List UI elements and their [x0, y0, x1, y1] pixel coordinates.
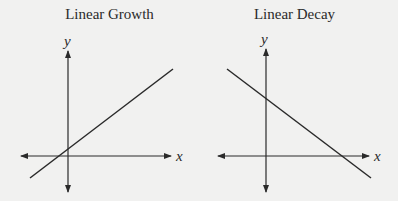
y-axis-label: y [62, 33, 71, 49]
x-axis-label: x [175, 148, 183, 164]
linear-decay-panel: Linear Decay y x [199, 0, 398, 201]
linear-growth-graph: y x [0, 0, 199, 201]
growth-line [30, 69, 173, 178]
linear-decay-graph: y x [199, 0, 398, 201]
y-axis-label: y [259, 31, 268, 47]
x-axis-label: x [373, 148, 381, 164]
decay-line [227, 69, 371, 178]
linear-growth-panel: Linear Growth y x [0, 0, 199, 201]
